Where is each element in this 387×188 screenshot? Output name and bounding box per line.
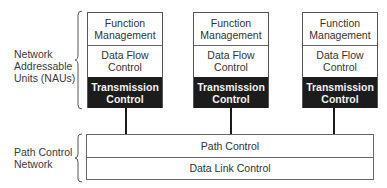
nau-label-line-3: Units (NAUs) (14, 72, 75, 84)
connector-line-2 (230, 108, 232, 135)
path-control-layer: Path Control (87, 135, 373, 158)
path-control-network-box: Path Control Data Link Control (86, 134, 374, 180)
connector-line-3 (333, 108, 335, 135)
pcn-group-label: Path Control Network (14, 146, 72, 170)
function-management-layer: FunctionManagement (194, 13, 268, 46)
dfc-line-1: Data Flow (207, 49, 254, 61)
data-link-control-layer: Data Link Control (87, 157, 373, 179)
pcn-label-line-1: Path Control (14, 146, 72, 158)
tc-line-1: Transmission (91, 81, 159, 93)
transmission-control-layer: TransmissionControl (303, 77, 377, 108)
fm-line-1: Function (94, 17, 155, 29)
fm-line-1: Function (309, 17, 370, 29)
transmission-control-layer: TransmissionControl (194, 77, 268, 108)
nau-brace-icon (74, 10, 84, 110)
transmission-control-layer: TransmissionControl (88, 77, 162, 108)
nau-stack-1: FunctionManagement Data FlowControl Tran… (87, 12, 163, 108)
function-management-layer: FunctionManagement (303, 13, 377, 46)
tc-line-1: Transmission (306, 81, 374, 93)
tc-line-2: Control (197, 93, 265, 105)
data-flow-control-layer: Data FlowControl (303, 45, 377, 77)
dfc-line-2: Control (316, 61, 363, 73)
tc-line-2: Control (306, 93, 374, 105)
tc-line-1: Transmission (197, 81, 265, 93)
connector-line-1 (125, 108, 127, 135)
pcn-label-line-2: Network (14, 158, 72, 170)
dfc-line-2: Control (207, 61, 254, 73)
tc-line-2: Control (91, 93, 159, 105)
dfc-line-2: Control (101, 61, 148, 73)
nau-group-label: Network Addressable Units (NAUs) (14, 48, 75, 84)
data-flow-control-layer: Data FlowControl (194, 45, 268, 77)
data-flow-control-layer: Data FlowControl (88, 45, 162, 77)
nau-label-line-2: Addressable (14, 60, 75, 72)
fm-line-2: Management (309, 29, 370, 41)
pcn-brace-icon (74, 133, 84, 183)
function-management-layer: FunctionManagement (88, 13, 162, 46)
nau-stack-3: FunctionManagement Data FlowControl Tran… (302, 12, 378, 108)
nau-stack-2: FunctionManagement Data FlowControl Tran… (193, 12, 269, 108)
nau-label-line-1: Network (14, 48, 75, 60)
dfc-line-1: Data Flow (316, 49, 363, 61)
fm-line-2: Management (200, 29, 261, 41)
fm-line-1: Function (200, 17, 261, 29)
dfc-line-1: Data Flow (101, 49, 148, 61)
fm-line-2: Management (94, 29, 155, 41)
